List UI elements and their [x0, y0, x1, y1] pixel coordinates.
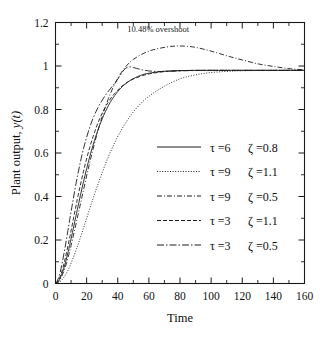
axes-group: 02040608010012014016000.20.40.60.811.2	[34, 17, 313, 302]
y-tick-label: 0.2	[34, 234, 49, 246]
x-tick-label: 80	[174, 290, 186, 302]
y-tick-label: 0.6	[34, 147, 49, 159]
legend-zeta-label-3: ζ =1.1	[248, 214, 278, 228]
y-tick-label: 1.2	[34, 17, 49, 29]
axis-labels-group: TimePlant output, y(t)	[9, 111, 193, 325]
legend-zeta-label-2: ζ =0.5	[248, 190, 278, 204]
step-response-figure: 02040608010012014016000.20.40.60.811.2 1…	[0, 0, 329, 339]
legend-zeta-label-1: ζ =1.1	[248, 165, 278, 179]
legend-tau-label-2: τ =9	[210, 190, 231, 204]
plot-canvas: 02040608010012014016000.20.40.60.811.2 1…	[0, 0, 329, 339]
y-tick-label: 0.4	[34, 191, 49, 203]
y-axis-title: Plant output, y(t)	[9, 111, 23, 195]
x-tick-label: 100	[203, 290, 221, 302]
x-tick-label: 60	[143, 290, 155, 302]
overshoot-annotation: 10.48% overshoot	[127, 24, 189, 34]
legend-tau-label-1: τ =9	[210, 165, 231, 179]
x-tick-label: 40	[112, 290, 124, 302]
legend-zeta-label-4: ζ =0.5	[248, 239, 278, 253]
annotation-group: 10.48% overshoot	[127, 24, 189, 34]
legend-tau-label-3: τ =3	[210, 214, 231, 228]
x-tick-label: 20	[81, 290, 93, 302]
x-tick-label: 0	[53, 290, 59, 302]
legend-zeta-label-0: ζ =0.8	[248, 141, 278, 155]
y-tick-label: 0.8	[34, 104, 49, 116]
x-tick-label: 120	[234, 290, 252, 302]
y-tick-label: 1	[43, 60, 49, 72]
x-axis-title: Time	[167, 311, 193, 325]
chart-legend: τ =6ζ =0.8τ =9ζ =1.1τ =9ζ =0.5τ =3ζ =1.1…	[157, 141, 278, 253]
y-tick-label: 0	[43, 278, 49, 290]
x-tick-label: 140	[265, 290, 283, 302]
x-tick-label: 160	[296, 290, 314, 302]
legend-tau-label-4: τ =3	[210, 239, 231, 253]
legend-tau-label-0: τ =6	[210, 141, 231, 155]
